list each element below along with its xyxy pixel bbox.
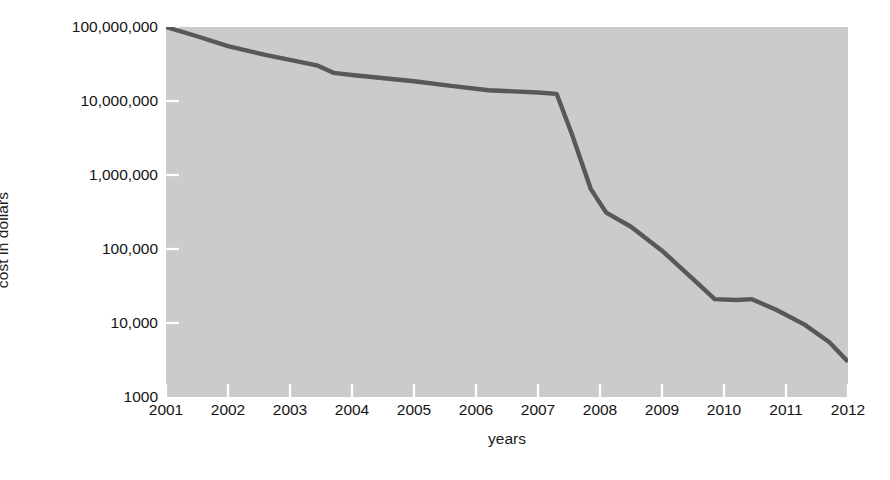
data-line-cost — [166, 27, 848, 362]
y-axis-tick-label: 1,000,000 — [8, 167, 158, 183]
y-axis-tick-labels: 100,000,00010,000,0001,000,000100,00010,… — [0, 0, 158, 480]
y-axis-tick-label: 100,000 — [8, 241, 158, 257]
x-axis-tick-label: 2010 — [707, 402, 741, 418]
x-axis-tick-marks — [166, 384, 848, 397]
y-axis-tick-label: 1000 — [8, 389, 158, 405]
x-axis-tick-label: 2002 — [211, 402, 245, 418]
y-axis-tick-marks — [166, 27, 179, 323]
x-axis-title: years — [166, 430, 848, 448]
plot-area — [166, 27, 848, 397]
x-axis-tick-label: 2003 — [273, 402, 307, 418]
x-axis-tick-label: 2012 — [831, 402, 865, 418]
y-axis-tick-label: 100,000,000 — [8, 19, 158, 35]
x-axis-tick-label: 2008 — [583, 402, 617, 418]
x-axis-tick-label: 2009 — [645, 402, 679, 418]
x-axis-tick-label: 2011 — [769, 402, 802, 418]
x-axis-tick-label: 2007 — [521, 402, 555, 418]
x-axis-tick-label: 2004 — [335, 402, 369, 418]
x-axis-tick-label: 2005 — [397, 402, 431, 418]
x-axis-tick-label: 2006 — [459, 402, 493, 418]
y-axis-tick-label: 10,000,000 — [8, 93, 158, 109]
x-axis-tick-labels: 2001200220032004200520062007200820092010… — [166, 402, 848, 426]
y-axis-tick-label: 10,000 — [8, 315, 158, 331]
line-chart-svg — [166, 27, 848, 397]
chart-figure: cost in dollars 100,000,00010,000,0001,0… — [0, 0, 890, 480]
x-axis-tick-label: 2001 — [149, 402, 183, 418]
